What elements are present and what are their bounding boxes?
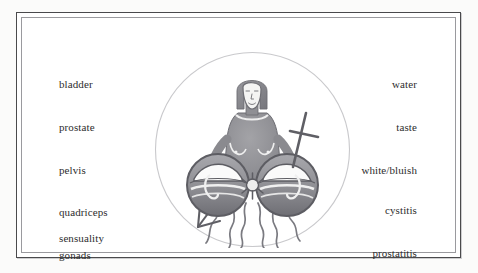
list-item: prostatitis — [351, 246, 417, 260]
list-bottom-right: cystitis prostatitis impotence STD's men… — [351, 175, 417, 273]
list-item: taste — [361, 120, 417, 134]
nipple-left — [235, 151, 238, 154]
list-item: water — [361, 77, 417, 91]
illustration-plate: bladder prostate pelvis quadriceps gonad… — [0, 0, 478, 273]
list-item: bladder — [59, 77, 108, 91]
list-item: pelvis — [59, 163, 108, 177]
list-item: prostate — [59, 120, 108, 134]
list-item: sensuality — [59, 231, 143, 245]
pelvic-disc-right — [256, 154, 318, 216]
nipple-right — [267, 151, 270, 154]
list-bottom-left: sensuality survival of species gender — [59, 203, 143, 273]
figure-group — [187, 81, 318, 249]
list-item: cystitis — [351, 203, 417, 217]
plate-frame: bladder prostate pelvis quadriceps gonad… — [16, 12, 461, 258]
central-vignette — [154, 51, 351, 248]
pelvic-disc-left — [187, 154, 249, 216]
